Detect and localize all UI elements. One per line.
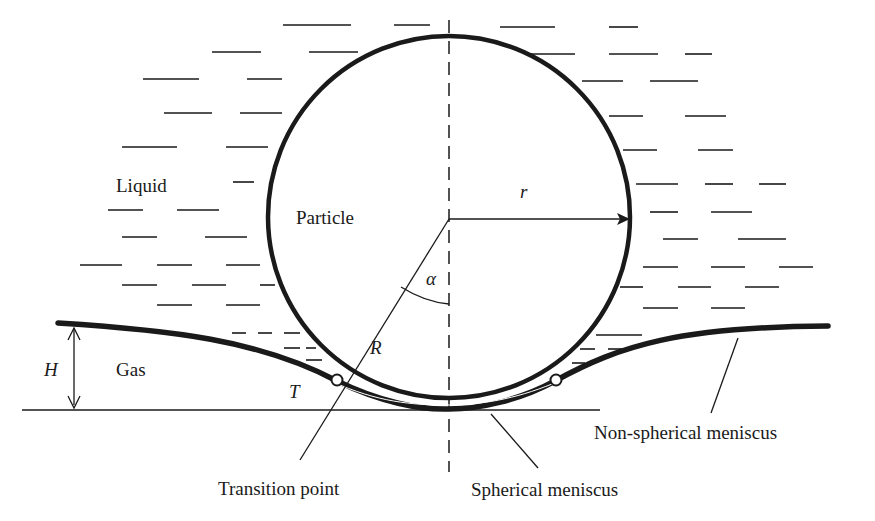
transition-point-right: [551, 375, 562, 386]
label-transition-point: Transition point: [218, 478, 340, 499]
non-spherical-meniscus-leader: [711, 338, 738, 413]
label-non-spherical-meniscus: Non-spherical meniscus: [594, 422, 777, 443]
spherical-meniscus-leader: [491, 414, 538, 468]
label-liquid: Liquid: [116, 175, 167, 196]
label-radius-R: R: [369, 337, 382, 358]
label-height-H: H: [43, 359, 59, 380]
alpha-arc: [401, 287, 449, 304]
label-tension-T: T: [289, 381, 301, 402]
transition-point-left: [332, 375, 343, 386]
label-gas: Gas: [116, 359, 146, 380]
label-alpha: α: [426, 268, 437, 289]
particle-meniscus-diagram: Liquid Particle r α R H Gas T Transition…: [0, 0, 875, 521]
label-spherical-meniscus: Spherical meniscus: [471, 479, 618, 500]
label-particle: Particle: [296, 207, 354, 228]
liquid-hatching: [80, 25, 813, 363]
label-radius-r: r: [520, 181, 528, 202]
